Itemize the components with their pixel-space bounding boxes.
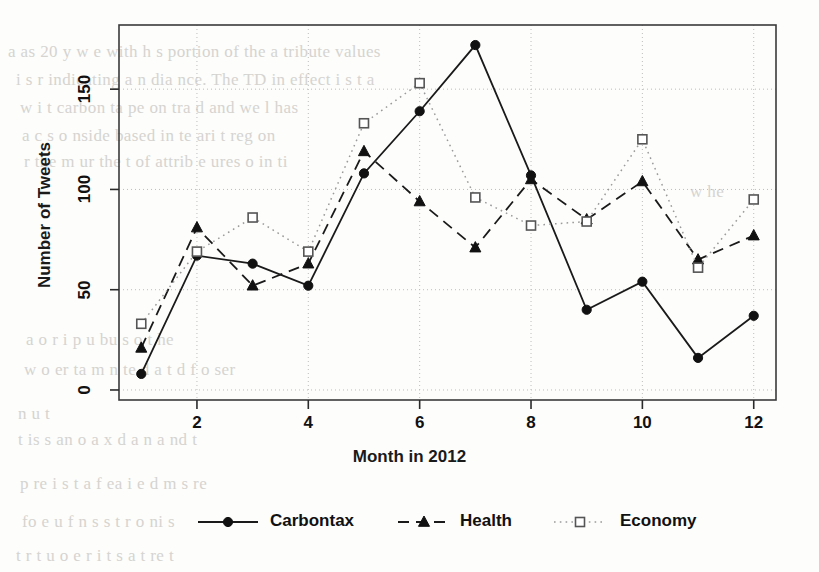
grid-lines <box>119 25 776 400</box>
axis-ticks <box>110 89 754 409</box>
x-axis-title: Month in 2012 <box>0 447 819 467</box>
x-tick-label: 8 <box>511 413 551 433</box>
x-tick-label: 10 <box>622 413 662 433</box>
legend-label-economy: Economy <box>620 511 697 531</box>
series-carbontax <box>137 40 759 378</box>
plot-box <box>119 25 776 400</box>
legend-symbols <box>198 516 606 527</box>
y-axis-title: Number of Tweets <box>35 105 55 325</box>
legend-symbol-economy <box>554 518 606 527</box>
legend-label-health: Health <box>460 511 512 531</box>
data-series-layer <box>136 40 759 378</box>
x-tick-label: 4 <box>288 413 328 433</box>
y-tick-label: 100 <box>75 164 95 214</box>
legend-symbol-health <box>398 516 450 526</box>
y-tick-label: 0 <box>75 365 95 415</box>
x-tick-label: 6 <box>400 413 440 433</box>
y-tick-label: 150 <box>75 64 95 114</box>
x-tick-label: 2 <box>177 413 217 433</box>
tweets-line-chart <box>0 0 819 572</box>
y-tick-label: 50 <box>75 265 95 315</box>
series-economy <box>137 79 758 329</box>
legend-label-carbontax: Carbontax <box>270 511 354 531</box>
chart-page: a as 20 y w e with h s portion of the a … <box>0 0 819 572</box>
legend-symbol-carbontax <box>198 517 258 526</box>
series-health <box>136 145 759 352</box>
x-tick-label: 12 <box>734 413 774 433</box>
